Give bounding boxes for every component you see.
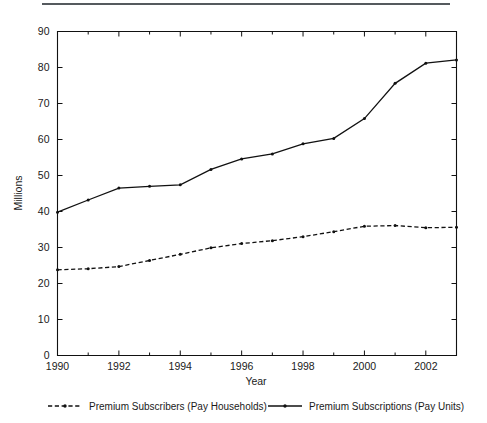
chart-legend: Premium Subscribers (Pay Households)Prem… bbox=[48, 401, 464, 412]
data-point-marker bbox=[148, 259, 151, 262]
data-point-marker bbox=[302, 142, 305, 145]
data-series-group bbox=[56, 58, 458, 271]
data-point-marker bbox=[455, 58, 458, 61]
data-point-marker bbox=[148, 185, 151, 188]
data-point-marker bbox=[424, 62, 427, 65]
data-point-marker bbox=[332, 137, 335, 140]
data-point-marker bbox=[455, 226, 458, 229]
y-tick-label: 60 bbox=[38, 133, 50, 145]
y-tick-label: 10 bbox=[38, 313, 50, 325]
data-point-marker bbox=[271, 152, 274, 155]
data-point-marker bbox=[363, 117, 366, 120]
legend-item-pay-units[interactable]: Premium Subscriptions (Pay Units) bbox=[268, 401, 464, 412]
series-pay-units bbox=[56, 58, 458, 213]
y-axis-title: Millions bbox=[12, 175, 24, 210]
data-point-marker bbox=[271, 239, 274, 242]
x-axis-ticks bbox=[58, 32, 457, 356]
data-point-marker bbox=[332, 230, 335, 233]
x-tick-label: 2002 bbox=[414, 360, 438, 372]
data-point-marker bbox=[56, 268, 59, 271]
data-point-marker bbox=[87, 267, 90, 270]
data-point-marker bbox=[179, 183, 182, 186]
legend-item-pay-households[interactable]: Premium Subscribers (Pay Households) bbox=[48, 401, 267, 412]
x-axis-tick-labels: 1990199219941996199820002002 bbox=[46, 360, 438, 372]
y-tick-label: 80 bbox=[38, 61, 50, 73]
data-point-marker bbox=[56, 211, 59, 214]
data-point-marker bbox=[117, 265, 120, 268]
y-axis-tick-labels: 0102030405060708090 bbox=[38, 25, 50, 361]
y-tick-label: 70 bbox=[38, 97, 50, 109]
data-point-marker bbox=[394, 82, 397, 85]
series-pay-households bbox=[56, 224, 458, 271]
axes-frame bbox=[58, 32, 457, 356]
data-point-marker bbox=[302, 235, 305, 238]
y-tick-label: 50 bbox=[38, 169, 50, 181]
data-point-marker bbox=[117, 187, 120, 190]
data-point-marker bbox=[240, 157, 243, 160]
data-point-marker bbox=[363, 225, 366, 228]
data-point-marker bbox=[394, 224, 397, 227]
data-point-marker bbox=[179, 253, 182, 256]
data-point-marker bbox=[209, 168, 212, 171]
data-point-marker bbox=[424, 226, 427, 229]
chart-figure: 0102030405060708090 19901992199419961998… bbox=[0, 0, 487, 423]
y-tick-label: 40 bbox=[38, 205, 50, 217]
x-tick-label: 1996 bbox=[230, 360, 254, 372]
x-axis-title: Year bbox=[245, 375, 267, 387]
x-tick-label: 1992 bbox=[107, 360, 131, 372]
x-tick-label: 1998 bbox=[291, 360, 315, 372]
data-point-marker bbox=[209, 246, 212, 249]
x-tick-label: 2000 bbox=[353, 360, 377, 372]
line-chart-canvas: 0102030405060708090 19901992199419961998… bbox=[0, 0, 487, 423]
y-tick-label: 20 bbox=[38, 277, 50, 289]
y-axis-ticks bbox=[58, 32, 457, 356]
y-tick-label: 30 bbox=[38, 241, 50, 253]
y-tick-label: 90 bbox=[38, 25, 50, 37]
data-point-marker bbox=[240, 242, 243, 245]
legend-label: Premium Subscribers (Pay Households) bbox=[89, 401, 267, 412]
legend-marker-sample bbox=[283, 404, 286, 407]
x-tick-label: 1994 bbox=[169, 360, 193, 372]
data-point-marker bbox=[87, 198, 90, 201]
x-tick-label: 1990 bbox=[46, 360, 70, 372]
legend-marker-sample bbox=[63, 404, 66, 407]
legend-label: Premium Subscriptions (Pay Units) bbox=[309, 401, 464, 412]
